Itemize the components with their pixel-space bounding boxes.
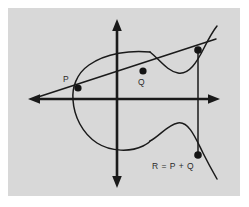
points-group xyxy=(74,46,201,159)
secant-line-through-p-q xyxy=(38,39,216,97)
curve-oval-component xyxy=(73,51,150,150)
point-q-label: Q xyxy=(138,77,145,87)
point-p-marker xyxy=(74,84,81,91)
x-axis-right-arrow-icon xyxy=(208,94,220,104)
labels-group: P Q R = P + Q xyxy=(63,74,194,171)
x-axis-left-arrow-icon xyxy=(28,94,40,104)
point-q-marker xyxy=(139,67,146,74)
y-axis-down-arrow-icon xyxy=(112,176,122,188)
point-third-intersection-marker xyxy=(194,46,202,54)
point-r-marker xyxy=(194,151,202,159)
figure-root: P Q R = P + Q xyxy=(0,0,249,207)
y-axis-up-arrow-icon xyxy=(112,19,122,31)
elliptic-curve-diagram: P Q R = P + Q xyxy=(0,0,249,207)
point-p-label: P xyxy=(63,74,69,84)
point-r-label: R = P + Q xyxy=(152,161,194,171)
construction-lines-group xyxy=(38,39,216,155)
